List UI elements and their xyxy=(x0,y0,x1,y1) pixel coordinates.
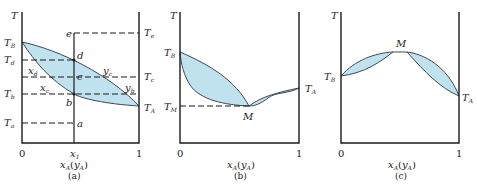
panel-c-region-left xyxy=(341,52,393,76)
panel-a-label-yc: yc xyxy=(102,65,113,77)
panel-c-label-TA: TA xyxy=(462,92,474,104)
panel-b-x-axis-label: xA(yA) xyxy=(227,159,255,171)
panel-c-x-tick-0: 0 xyxy=(338,148,344,159)
panel-c-region-right xyxy=(407,52,459,96)
panel-b-label-TM: TM xyxy=(164,101,178,113)
panel-a-label-TB: TB xyxy=(4,37,16,49)
panel-b-caption: (b) xyxy=(234,171,247,181)
panel-c-label-M: M xyxy=(395,38,407,49)
panel-a: T TB Td Tb Ta Te Tc TA xd xc yc yb e d c… xyxy=(4,10,156,181)
panel-a-label-Td: Td xyxy=(4,54,15,66)
panel-b-x-tick-0: 0 xyxy=(177,148,183,159)
panel-a-point-label-a: a xyxy=(77,118,83,129)
panel-c-label-TB: TB xyxy=(324,71,336,83)
panel-a-label-Tb: Tb xyxy=(4,88,15,100)
panel-a-x-axis-label: xA(yA) xyxy=(60,159,88,171)
panel-b: T TB TM TA M 0 1 xA(yA) (b) xyxy=(164,10,317,181)
panel-a-point-b xyxy=(73,93,76,96)
panel-a-point-label-b: b xyxy=(66,97,72,108)
panel-a-label-TA: TA xyxy=(144,102,156,114)
panel-a-label-xc: xc xyxy=(40,82,50,94)
panel-a-point-label-c: c xyxy=(77,71,83,82)
panel-a-label-Te: Te xyxy=(144,27,155,39)
panel-b-region-left xyxy=(180,52,249,106)
panel-b-x-tick-1: 1 xyxy=(296,148,302,159)
panel-b-label-TB: TB xyxy=(164,47,176,59)
panel-b-label-M: M xyxy=(242,111,254,122)
panel-a-point-label-e: e xyxy=(66,28,72,39)
panel-a-label-xd: xd xyxy=(28,65,38,77)
panel-b-y-axis-label: T xyxy=(170,10,178,21)
panel-c-caption: (c) xyxy=(395,171,407,181)
panel-b-label-TA: TA xyxy=(305,83,317,95)
panel-a-y-axis-label: T xyxy=(11,10,19,21)
panel-a-point-d xyxy=(73,59,76,62)
panel-a-x-tick-0: 0 xyxy=(19,148,25,159)
panel-c-x-axis-label: xA(yA) xyxy=(388,159,416,171)
panel-a-x-tick-1: 1 xyxy=(136,148,142,159)
panel-b-region-right xyxy=(249,88,299,106)
panel-c: T TB TA M 0 1 xA(yA) (c) xyxy=(324,10,474,181)
panel-c-y-axis-label: T xyxy=(331,10,339,21)
panel-c-x-tick-1: 1 xyxy=(456,148,462,159)
panel-a-label-yb: yb xyxy=(124,82,135,94)
panel-a-label-Tc: Tc xyxy=(144,71,155,83)
panel-a-point-label-d: d xyxy=(77,50,83,61)
phase-diagram-figure: T TB Td Tb Ta Te Tc TA xd xc yc yb e d c… xyxy=(0,0,477,191)
panel-a-caption: (a) xyxy=(68,171,80,181)
panel-a-label-Ta: Ta xyxy=(4,117,15,129)
